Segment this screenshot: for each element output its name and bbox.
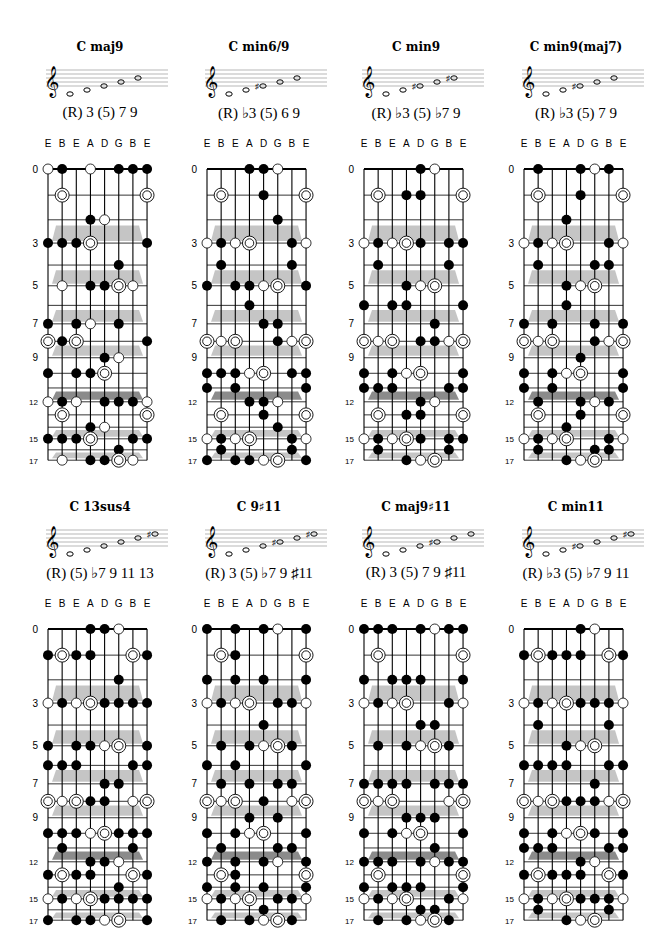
fret-number: 5 [191,280,197,291]
fifth-open-circle [416,915,426,925]
root-double-ring [531,188,545,202]
fifth-open-circle [71,698,81,708]
string-label: D [417,598,424,609]
fret-number: 5 [32,280,38,291]
note-dot [561,215,571,225]
fifth-open-circle [519,238,529,248]
note-dot [71,870,81,880]
string-label: D [260,138,267,149]
fret-number: 7 [508,778,514,789]
root-double-ring [399,696,413,710]
note-dot [230,368,240,378]
fret-number: 15 [29,435,38,444]
string-label: E [620,598,627,609]
note-dot [590,828,600,838]
note-dot [273,698,283,708]
note-dot [128,397,138,407]
string-label: A [563,598,570,609]
interval-formula: (R) ♭3 (5) 7 9 [496,104,656,122]
svg-text:♯: ♯ [572,542,576,551]
fifth-open-circle [100,422,110,432]
note-dot [359,779,369,789]
root-double-ring [299,648,313,662]
note-dot [114,698,124,708]
string-label: A [246,598,253,609]
string-label: E [45,598,52,609]
fret-marker-band [528,770,619,782]
fret-number: 3 [508,698,514,709]
fret-number: 9 [348,812,354,823]
interval-formula: (R) 3 (5) 7 9 ♯11 [336,564,496,581]
string-label: E [549,138,556,149]
note-dot [71,650,81,660]
fifth-open-circle [244,368,254,378]
note-dot [57,238,67,248]
fifth-open-circle [43,397,53,407]
root-double-ring [126,648,140,662]
string-label: E [232,138,239,149]
note-dot [444,698,454,708]
treble-clef-icon: 𝄞 [520,66,535,98]
note-dot [561,760,571,770]
root-double-ring [242,236,256,250]
note-dot [430,319,440,329]
root-double-ring [357,794,371,808]
note-dot [416,857,426,867]
string-label: B [218,598,225,609]
root-double-ring [456,408,470,422]
note-dot [259,397,269,407]
staff-notation: 𝄞♯ [40,522,170,562]
note-dot [604,894,614,904]
chord-diagram: C 9♯11𝄞♯♯(R) 3 (5) ♭7 9 ♯11EBEADGBE03579… [179,500,339,940]
note-dot [458,828,468,838]
root-double-ring [299,188,313,202]
fret-marker-band [52,805,143,815]
root-double-ring [55,648,69,662]
note-dot [373,383,383,393]
fret-number: 7 [508,318,514,329]
fret-number: 17 [188,457,197,466]
note-dot [387,779,397,789]
note-dot [301,455,311,465]
note-dot [359,300,369,310]
note-dot [43,870,53,880]
note-dot [416,336,426,346]
note-dot [359,675,369,685]
note-dot [259,882,269,892]
root-double-ring [545,794,559,808]
note-dot [85,870,95,880]
note-dot [287,698,297,708]
note-dot [128,828,138,838]
note-dot [618,368,628,378]
string-label: E [389,598,396,609]
string-label: D [101,598,108,609]
root-double-ring [299,334,313,348]
fifth-open-circle [576,915,586,925]
note-dot [259,905,269,915]
root-double-ring [588,453,602,467]
fret-number: 15 [345,895,354,904]
note-dot [444,238,454,248]
fret-number: 3 [32,698,38,709]
note-dot [519,319,529,329]
root-double-ring [531,868,545,882]
fret-number: 3 [191,698,197,709]
fifth-open-circle [43,164,53,174]
chord-title: C 9♯11 [179,500,339,514]
root-double-ring [112,913,126,927]
root-double-ring [242,892,256,906]
note-dot [401,779,411,789]
root-double-ring [214,188,228,202]
note-dot [458,434,468,444]
note-dot [43,741,53,751]
note-dot [444,894,454,904]
fretboard: 03579121517 [496,159,656,469]
note-dot [244,741,254,751]
fret-number: 12 [505,398,514,407]
fret-number: 3 [348,238,354,249]
fifth-open-circle [202,698,212,708]
note-dot [202,882,212,892]
note-dot [604,843,614,853]
staff-notation: 𝄞♯ [516,62,646,102]
fret-number: 15 [505,435,514,444]
